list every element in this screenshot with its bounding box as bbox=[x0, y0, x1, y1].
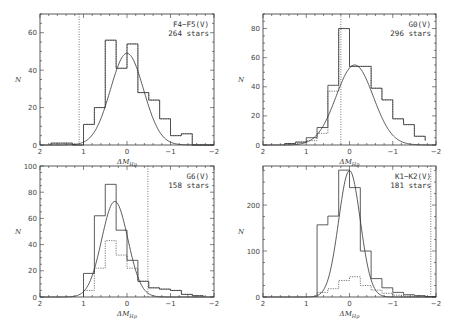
solid-histogram bbox=[51, 40, 214, 145]
dotted-histogram bbox=[285, 29, 426, 145]
y-tick-label: 20 bbox=[28, 104, 37, 112]
y-tick-label: 60 bbox=[28, 29, 37, 37]
x-tick-label: 0 bbox=[347, 300, 351, 308]
x-tick-label: −2 bbox=[209, 148, 219, 156]
y-axis-title: N bbox=[14, 228, 22, 236]
y-tick-label: 40 bbox=[28, 241, 37, 249]
x-tick-label: 2 bbox=[38, 148, 42, 156]
x-tick-label: 1 bbox=[81, 148, 85, 156]
y-tick-label: 200 bbox=[247, 202, 260, 210]
y-tick-label: 60 bbox=[251, 54, 260, 62]
x-axis-title: ΔMHp bbox=[116, 310, 138, 320]
x-tick-label: 1 bbox=[81, 300, 85, 308]
y-tick-label: 100 bbox=[24, 163, 37, 171]
spectral-type-label: K1−K2(V) bbox=[395, 172, 431, 181]
y-axis-title: N bbox=[237, 76, 245, 84]
x-tick-label: 0 bbox=[125, 148, 129, 156]
x-axis-title: ΔMHp bbox=[339, 310, 361, 320]
y-tick-label: 100 bbox=[247, 248, 260, 256]
x-tick-label: −1 bbox=[165, 148, 175, 156]
x-tick-label: 0 bbox=[347, 148, 351, 156]
y-tick-label: 40 bbox=[28, 67, 37, 75]
spectral-type-label: F4−F5(V) bbox=[173, 20, 209, 29]
y-axis-title: N bbox=[14, 76, 22, 84]
y-tick-label: 60 bbox=[28, 215, 37, 223]
star-count-label: 158 stars bbox=[168, 181, 209, 190]
x-tick-label: 1 bbox=[304, 148, 308, 156]
dotted-histogram bbox=[51, 40, 214, 145]
dotted-histogram bbox=[317, 277, 436, 297]
x-tick-label: −1 bbox=[388, 300, 398, 308]
spectral-type-label: G0(V) bbox=[408, 20, 431, 29]
spectral-type-label: G6(V) bbox=[186, 172, 209, 181]
figure-canvas: 210−1−20204060NΔMHpF4−F5(V)264 stars210−… bbox=[0, 0, 453, 325]
x-tick-label: −2 bbox=[431, 148, 441, 156]
y-tick-label: 80 bbox=[251, 25, 260, 33]
y-tick-label: 0 bbox=[33, 294, 37, 302]
y-tick-label: 20 bbox=[251, 112, 260, 120]
star-count-label: 181 stars bbox=[390, 181, 431, 190]
x-tick-label: −1 bbox=[165, 300, 175, 308]
x-tick-label: 1 bbox=[304, 300, 308, 308]
y-tick-label: 0 bbox=[256, 294, 260, 302]
panel-1: 210−1−20204060NΔMHpF4−F5(V)264 stars bbox=[14, 14, 219, 168]
panel-2: 210−1−2020406080NΔMHpG0(V)296 stars bbox=[237, 14, 441, 168]
star-count-label: 296 stars bbox=[390, 29, 431, 38]
y-tick-label: 80 bbox=[28, 189, 37, 197]
panel-4: 210−1−20100200NΔMHpK1−K2(V)181 stars bbox=[237, 166, 441, 320]
x-tick-label: 2 bbox=[261, 148, 265, 156]
solid-histogram bbox=[285, 29, 426, 145]
y-tick-label: 0 bbox=[33, 142, 37, 150]
x-tick-label: 0 bbox=[125, 300, 129, 308]
star-count-label: 264 stars bbox=[168, 29, 209, 38]
x-tick-label: −2 bbox=[431, 300, 441, 308]
y-axis-title: N bbox=[237, 228, 245, 236]
x-tick-label: 2 bbox=[261, 300, 265, 308]
panel-3: 210−1−2020406080100NΔMHpG6(V)158 stars bbox=[14, 163, 219, 321]
y-tick-label: 20 bbox=[28, 267, 37, 275]
x-tick-label: −1 bbox=[388, 148, 398, 156]
x-tick-label: −2 bbox=[209, 300, 219, 308]
y-tick-label: 40 bbox=[251, 83, 260, 91]
gaussian-fit-curve bbox=[263, 65, 436, 145]
y-tick-label: 0 bbox=[256, 142, 260, 150]
x-tick-label: 2 bbox=[38, 300, 42, 308]
